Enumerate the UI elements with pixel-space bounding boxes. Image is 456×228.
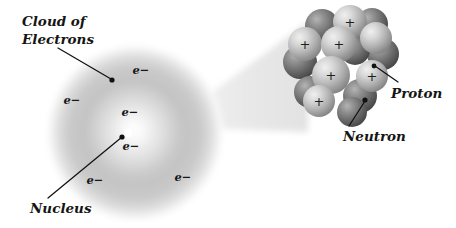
proton-particle (360, 22, 392, 54)
proton-plus-sign: + (367, 69, 378, 84)
electron-label: e− (64, 93, 81, 107)
electron-label: e− (122, 105, 139, 119)
proton-particle: + (303, 85, 335, 117)
neutron-label: Neutron (342, 128, 406, 144)
proton-plus-sign: + (334, 37, 345, 52)
electron-label: e− (175, 170, 192, 184)
proton-leader-dot (372, 64, 377, 69)
proton-plus-sign: + (326, 68, 337, 83)
atom-diagram-canvas: + + + + + + (0, 0, 456, 228)
proton-plus-sign: + (345, 15, 356, 30)
proton-particle: + (288, 27, 322, 61)
atom-diagram-figure: + + + + + + (0, 0, 456, 228)
proton-plus-sign: + (300, 37, 311, 52)
cloud-leader-dot (109, 77, 114, 82)
neutron-leader-dot (362, 97, 367, 102)
electron-label: e− (87, 173, 104, 187)
cloud-of-electrons-label-line1: Cloud of (22, 13, 88, 29)
electron-label: e− (133, 63, 150, 77)
proton-label: Proton (390, 85, 442, 101)
cloud-of-electrons-label-line2: Electrons (21, 31, 94, 47)
electron-label: e− (123, 139, 140, 153)
nucleus-label: Nucleus (29, 200, 92, 216)
proton-plus-sign: + (314, 94, 325, 109)
neutron-particle-front (337, 97, 367, 127)
nucleus-dot (124, 129, 132, 137)
